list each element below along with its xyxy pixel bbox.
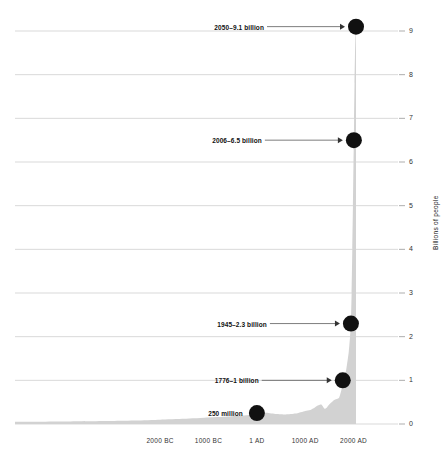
annotation-markers-group — [249, 19, 364, 421]
chart-canvas — [0, 0, 447, 461]
population-area-fill — [15, 27, 356, 424]
arrowhead-icon — [335, 321, 340, 327]
anno-1776-label: 1776–1 billion — [215, 377, 259, 384]
y-axis-tick-label: 7 — [409, 114, 413, 121]
x-axis-tick-label: 2000 BC — [146, 437, 173, 444]
y-axis-tick-label: 6 — [409, 158, 413, 165]
data-point-marker — [346, 132, 362, 148]
data-point-marker — [335, 372, 351, 388]
data-point-marker — [348, 19, 364, 35]
data-point-marker — [343, 316, 359, 332]
y-axis-tick-label: 4 — [409, 245, 413, 252]
plot-area: 0123456789 2000 BC1000 BC1 AD1000 AD2000… — [0, 0, 447, 461]
annotation-leaders-group — [262, 24, 345, 384]
x-axis-tick-label: 1 AD — [249, 437, 264, 444]
anno-2006-label: 2006–6.5 billion — [212, 137, 262, 144]
population-growth-chart: 0123456789 2000 BC1000 BC1 AD1000 AD2000… — [0, 0, 447, 461]
anno-1945-label: 1945–2.3 billion — [217, 320, 267, 327]
y-axis-tick-label: 0 — [409, 420, 413, 427]
y-axis-tick-label: 8 — [409, 71, 413, 78]
area-series-group — [15, 27, 356, 424]
y-axis-tick-label: 5 — [409, 202, 413, 209]
y-axis-tick-label: 1 — [409, 376, 413, 383]
arrowhead-icon — [340, 24, 345, 30]
y-axis-tick-label: 3 — [409, 289, 413, 296]
gridlines-group — [15, 31, 405, 424]
y-axis-title: Billions of people — [432, 195, 439, 250]
data-point-marker — [249, 405, 265, 421]
x-axis-tick-label: 2000 AD — [340, 437, 367, 444]
anno-2050-label: 2050–9.1 billion — [214, 23, 264, 30]
arrowhead-icon — [338, 137, 343, 143]
x-axis-tick-label: 1000 BC — [195, 437, 222, 444]
y-axis-tick-label: 9 — [409, 27, 413, 34]
x-axis-tick-label: 1000 AD — [292, 437, 319, 444]
y-axis-tick-label: 2 — [409, 333, 413, 340]
arrowhead-icon — [327, 377, 332, 383]
anno-250-million-label: 250 million — [208, 410, 243, 417]
